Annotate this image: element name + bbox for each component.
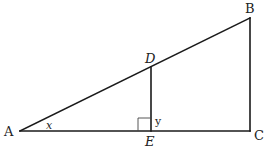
angle-label-y: y [154, 115, 162, 128]
label-a: A [3, 124, 14, 139]
label-c: C [254, 128, 264, 143]
right-angle-mark [138, 118, 151, 131]
segment-ab [20, 18, 250, 131]
label-d: D [144, 51, 156, 66]
label-b: B [245, 1, 255, 16]
geometry-diagram: A B C D E x y [0, 0, 265, 149]
label-e: E [144, 134, 155, 149]
angle-label-x: x [46, 119, 53, 132]
